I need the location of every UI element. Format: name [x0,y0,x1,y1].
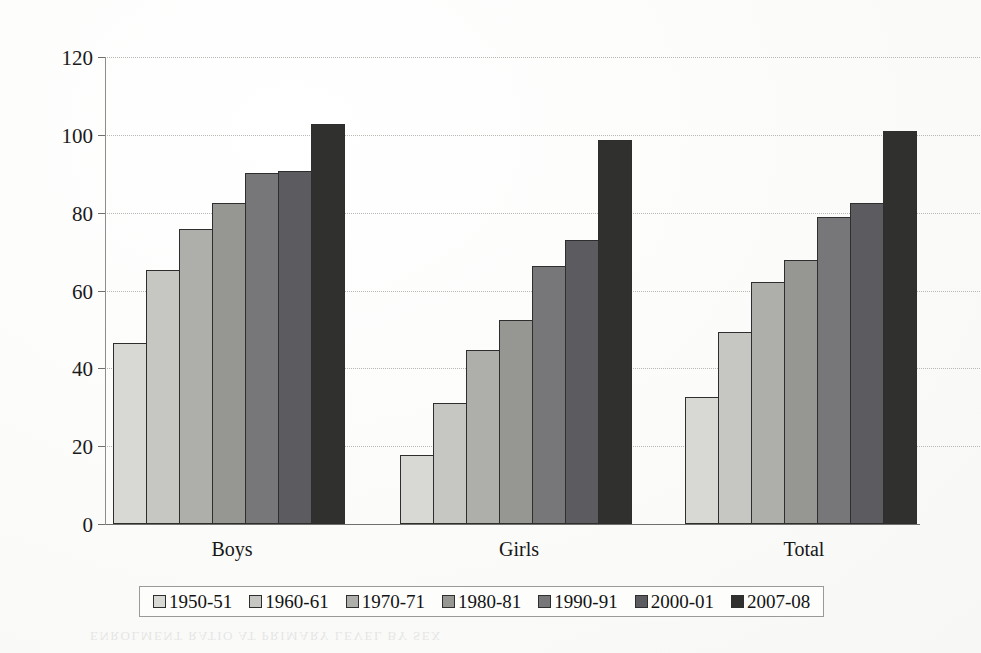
y-axis-tick-label: 0 [83,515,94,536]
legend-swatch-icon [249,595,262,608]
legend-swatch-icon [442,595,455,608]
bar-boys-1970-71 [179,229,213,524]
bar-girls-1960-61 [433,403,467,524]
bar-group-boys: Boys [113,57,351,524]
y-axis-tick-label: 80 [72,203,93,224]
bar-girls-1970-71 [466,350,500,524]
bar-girls-1950-51 [400,455,434,524]
bar-total-2007-08 [883,131,917,524]
y-axis-tick-label: 20 [72,437,93,458]
y-tick-40 [98,368,105,369]
category-label-boys: Boys [113,538,351,561]
y-axis-tick-label: 100 [62,125,94,146]
legend-swatch-icon [538,595,551,608]
bar-girls-2007-08 [598,140,632,524]
bar-boys-1990-91 [245,173,279,524]
chart-legend: 1950-511960-611970-711980-811990-912000-… [139,586,824,617]
bar-girls-1980-81 [499,320,533,524]
legend-item-1960-61: 1960-61 [249,592,328,611]
legend-label: 1980-81 [458,592,521,611]
legend-label: 1950-51 [169,592,232,611]
legend-swatch-icon [731,595,744,608]
legend-item-1950-51: 1950-51 [153,592,232,611]
category-label-girls: Girls [400,538,638,561]
y-axis-tick-label: 120 [62,48,94,69]
gridline-0: 0 [105,524,920,525]
y-tick-80 [98,213,105,214]
legend-swatch-icon [153,595,166,608]
bar-boys-1980-81 [212,203,246,524]
legend-item-2007-08: 2007-08 [731,592,810,611]
bar-total-1990-91 [817,217,851,524]
legend-item-1990-91: 1990-91 [538,592,617,611]
bar-girls-1990-91 [532,266,566,524]
bar-group-girls: Girls [400,57,638,524]
bar-chart: 120100806040200 BoysGirlsTotal 1950-5119… [0,0,981,653]
y-tick-0 [98,524,105,525]
bar-group-total: Total [685,57,923,524]
bar-total-1970-71 [751,282,785,524]
bar-total-1950-51 [685,397,719,524]
bar-total-2000-01 [850,203,884,524]
bar-boys-2000-01 [278,171,312,524]
y-tick-100 [98,135,105,136]
legend-label: 1970-71 [362,592,425,611]
bar-boys-1950-51 [113,343,147,524]
legend-label: 1990-91 [554,592,617,611]
legend-label: 1960-61 [265,592,328,611]
y-tick-60 [98,291,105,292]
y-tick-20 [98,446,105,447]
category-label-total: Total [685,538,923,561]
bar-total-1960-61 [718,332,752,524]
legend-swatch-icon [635,595,648,608]
legend-item-2000-01: 2000-01 [635,592,714,611]
y-axis-tick-label: 40 [72,359,93,380]
y-tick-120 [98,57,105,58]
y-axis-tick-label: 60 [72,281,93,302]
legend-label: 2007-08 [747,592,810,611]
legend-label: 2000-01 [651,592,714,611]
bar-total-1980-81 [784,260,818,524]
bar-girls-2000-01 [565,240,599,524]
scan-bleed-text: ENROLMENT RATIO AT PRIMARY LEVEL BY SEX [90,628,890,644]
bar-boys-2007-08 [311,124,345,524]
legend-swatch-icon [346,595,359,608]
legend-item-1970-71: 1970-71 [346,592,425,611]
plot-area: BoysGirlsTotal [105,57,920,524]
bar-boys-1960-61 [146,270,180,524]
legend-item-1980-81: 1980-81 [442,592,521,611]
